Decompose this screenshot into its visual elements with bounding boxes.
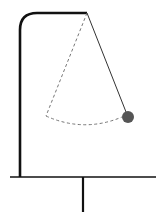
pendulum-bob: [122, 111, 134, 123]
ghost-string-dashed: [46, 13, 87, 116]
pendulum-diagram: [0, 0, 164, 223]
swing-arc-dashed: [46, 116, 122, 125]
pendulum-string: [87, 13, 128, 117]
stand-frame: [20, 13, 87, 177]
